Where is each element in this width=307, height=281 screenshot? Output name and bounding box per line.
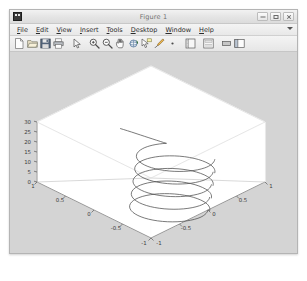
chevron-down-icon[interactable] [287,27,293,30]
menu-item-file[interactable]: File [13,24,32,36]
insert-colorbar-icon[interactable] [184,38,196,50]
figure-window: Figure 1 File Edit View Insert Tools Des… [9,9,298,254]
z-axis-ticks: 0 5 10 15 20 25 30 [24,119,37,185]
pan-icon[interactable] [114,38,126,50]
window-titlebar[interactable]: Figure 1 [10,10,297,24]
z-tick-15: 15 [24,149,31,155]
menu-item-help[interactable]: Help [195,24,218,36]
maximize-button[interactable] [270,12,281,21]
y-tick-m05: -0.5 [181,225,192,231]
menu-item-view[interactable]: View [53,24,76,36]
y-tick-05: 0.5 [239,197,248,203]
window-controls [257,12,294,21]
data-cursor-icon[interactable] [140,38,152,50]
menu-item-edit[interactable]: Edit [32,24,53,36]
z-tick-25: 25 [24,129,31,135]
zoom-in-icon[interactable] [88,38,100,50]
z-tick-10: 10 [24,159,31,165]
desktop-background: Figure 1 File Edit View Insert Tools Des… [0,0,307,281]
zoom-out-icon[interactable] [101,38,113,50]
brush-select-icon[interactable] [153,38,165,50]
x-tick-05: 0.5 [56,197,65,203]
y-tick-1: 1 [269,183,272,189]
z-tick-20: 20 [24,139,31,145]
y-tick-m1: -1 [156,240,161,246]
axes-3d[interactable]: 0 5 10 15 20 25 30 [10,52,297,253]
menu-item-desktop[interactable]: Desktop [127,24,162,36]
insert-legend-icon[interactable] [202,38,214,50]
save-figure-icon[interactable] [39,38,51,50]
figure-canvas[interactable]: 0 5 10 15 20 25 30 [10,52,297,253]
menu-item-insert[interactable]: Insert [76,24,103,36]
helix-plot-svg: 0 5 10 15 20 25 30 [10,52,297,253]
matlab-figure-icon [13,12,22,21]
y-tick-0: 0 [212,211,216,217]
new-figure-icon[interactable] [13,38,25,50]
open-file-icon[interactable] [26,38,38,50]
x-tick-m1: -1 [141,240,146,246]
link-plot-icon[interactable] [166,38,178,50]
hide-plot-tools-icon[interactable] [220,38,232,50]
z-tick-5: 5 [28,169,31,175]
print-figure-icon[interactable] [52,38,64,50]
figure-toolbar [10,36,297,52]
menu-item-window[interactable]: Window [161,24,195,36]
x-tick-1: 1 [31,183,34,189]
close-button[interactable] [283,12,294,21]
show-plot-tools-icon[interactable] [233,38,245,50]
edit-plot-pointer-icon[interactable] [70,38,82,50]
x-tick-0: 0 [87,211,91,217]
window-title: Figure 1 [10,10,297,24]
x-tick-m05: -0.5 [111,225,122,231]
menubar: File Edit View Insert Tools Desktop Wind… [10,24,297,36]
menu-item-tools[interactable]: Tools [103,24,127,36]
minimize-button[interactable] [257,12,268,21]
z-tick-30: 30 [24,119,31,125]
rotate-3d-icon[interactable] [127,38,139,50]
